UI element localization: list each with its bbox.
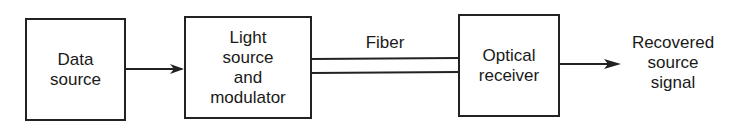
block-light-source-modulator: Light source and modulator bbox=[184, 16, 312, 119]
block-optical-receiver: Optical receiver bbox=[458, 14, 560, 117]
fiber-line-bottom bbox=[311, 72, 459, 73]
output-label: Recovered source signal bbox=[618, 33, 728, 93]
block-label: Data source bbox=[50, 50, 101, 90]
block-data-source: Data source bbox=[25, 18, 126, 121]
block-label: Light source and modulator bbox=[210, 28, 286, 108]
block-label: Optical receiver bbox=[479, 46, 539, 86]
fiber-label: Fiber bbox=[355, 33, 415, 53]
fiber-line-top bbox=[311, 58, 459, 59]
